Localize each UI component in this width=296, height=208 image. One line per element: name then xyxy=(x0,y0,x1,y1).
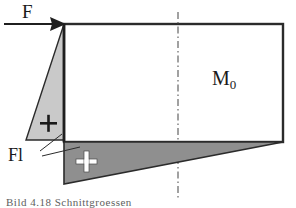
figure-canvas xyxy=(0,0,296,208)
figure-caption: Bild 4.18 Schnittgroessen xyxy=(6,197,132,208)
force-label: F xyxy=(22,2,33,21)
reaction-label: Fl xyxy=(8,146,23,164)
moment-label: M0 xyxy=(212,68,236,88)
moment-rectangle xyxy=(64,24,283,142)
moment-label-main: M xyxy=(212,67,230,89)
engineering-figure: F M0 Fl Bild 4.18 Schnittgroessen xyxy=(0,0,296,208)
moment-label-subscript: 0 xyxy=(230,77,237,92)
